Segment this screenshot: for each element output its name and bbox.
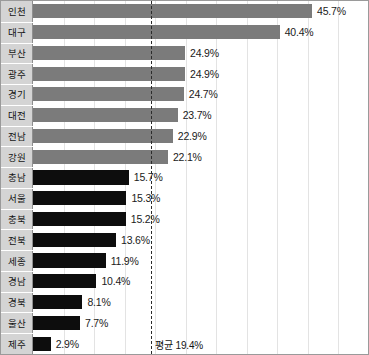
chart-frame [0,0,369,355]
horizontal-bar-chart: 인천대구부산광주경기대전전남강원충남서울충북전북세종경남경북울산제주 45.7%… [0,0,369,355]
